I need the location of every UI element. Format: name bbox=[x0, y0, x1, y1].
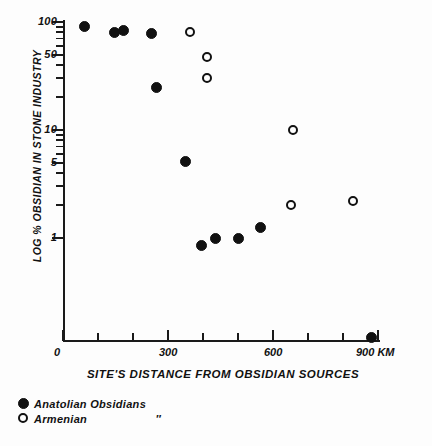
x-tick-label: 0 bbox=[54, 346, 60, 358]
chart-legend: Anatolian Obsidians Armenian ″ bbox=[16, 396, 161, 426]
data-point-armenian bbox=[202, 52, 212, 62]
x-tick bbox=[97, 333, 99, 341]
y-tick bbox=[56, 77, 64, 79]
x-tick-label: 900 KM bbox=[356, 346, 395, 358]
legend-item-armenian: Armenian ″ bbox=[16, 411, 161, 426]
y-tick bbox=[56, 153, 64, 155]
y-tick bbox=[56, 96, 64, 98]
y-axis-line bbox=[63, 20, 65, 342]
x-tick bbox=[237, 333, 239, 341]
obsidian-falloff-chart: 100501051 0300600900 KM LOG % OBSIDIAN I… bbox=[0, 0, 432, 446]
data-point-anatolian bbox=[180, 156, 191, 167]
data-point-armenian bbox=[288, 125, 298, 135]
legend-ditto-mark: ″ bbox=[87, 413, 161, 425]
data-point-anatolian bbox=[210, 233, 221, 244]
y-tick bbox=[56, 45, 64, 47]
data-point-armenian bbox=[202, 73, 212, 83]
legend-label-armenian: Armenian bbox=[34, 413, 87, 425]
y-tick bbox=[56, 26, 64, 28]
y-tick bbox=[56, 64, 64, 66]
x-tick bbox=[272, 330, 274, 341]
y-tick bbox=[56, 146, 64, 148]
data-point-anatolian bbox=[366, 332, 377, 343]
data-point-anatolian bbox=[233, 233, 244, 244]
x-axis-line bbox=[63, 340, 380, 342]
data-point-anatolian bbox=[79, 21, 90, 32]
data-point-anatolian bbox=[255, 222, 266, 233]
data-point-armenian bbox=[348, 196, 358, 206]
y-axis-title: LOG % OBSIDIAN IN STONE INDUSTRY bbox=[31, 31, 43, 281]
data-point-anatolian bbox=[151, 82, 162, 93]
y-tick bbox=[56, 204, 64, 206]
x-tick bbox=[62, 330, 64, 341]
y-tick bbox=[56, 139, 64, 141]
open-circle-icon bbox=[16, 411, 34, 426]
y-tick bbox=[56, 134, 64, 136]
x-tick bbox=[167, 330, 169, 341]
y-tick bbox=[56, 31, 64, 33]
x-tick bbox=[307, 333, 309, 341]
y-tick bbox=[56, 185, 64, 187]
legend-label-anatolian: Anatolian Obsidians bbox=[34, 398, 146, 410]
filled-circle-icon bbox=[16, 396, 34, 411]
x-tick bbox=[377, 330, 379, 341]
x-tick-label: 600 bbox=[264, 346, 282, 358]
data-point-armenian bbox=[286, 200, 296, 210]
data-point-armenian bbox=[185, 27, 195, 37]
x-tick-label: 300 bbox=[159, 346, 177, 358]
data-point-anatolian bbox=[118, 25, 129, 36]
legend-item-anatolian: Anatolian Obsidians bbox=[16, 396, 161, 411]
data-point-anatolian bbox=[196, 240, 207, 251]
y-tick bbox=[56, 172, 64, 174]
x-tick bbox=[202, 333, 204, 341]
y-tick bbox=[56, 38, 64, 40]
y-tick-label: 100 bbox=[23, 15, 57, 27]
data-point-anatolian bbox=[146, 28, 157, 39]
x-axis-title: SITE'S DISTANCE FROM OBSIDIAN SOURCES bbox=[48, 368, 398, 380]
x-tick bbox=[132, 333, 134, 341]
x-tick bbox=[342, 333, 344, 341]
